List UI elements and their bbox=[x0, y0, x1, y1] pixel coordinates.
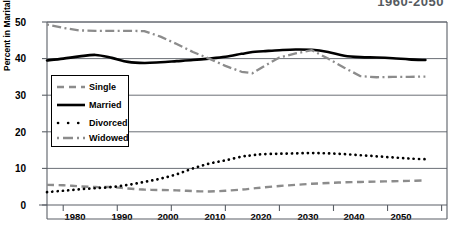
series-line-single bbox=[47, 180, 425, 191]
legend-label-widowed: Widowed bbox=[89, 133, 128, 143]
legend-label-single: Single bbox=[89, 82, 116, 92]
series-line-married bbox=[47, 49, 425, 63]
legend-swatch-single bbox=[56, 82, 86, 92]
series-line-divorced bbox=[47, 153, 425, 192]
legend-item-single: Single bbox=[52, 78, 128, 96]
chart-legend: Single Married Divorced Widowed bbox=[51, 75, 129, 147]
legend-item-widowed: Widowed bbox=[52, 129, 128, 147]
legend-swatch-divorced bbox=[56, 118, 86, 128]
legend-label-married: Married bbox=[89, 100, 122, 110]
legend-swatch-married bbox=[56, 100, 86, 110]
legend-item-married: Married bbox=[52, 96, 128, 114]
legend-swatch-widowed bbox=[56, 133, 86, 143]
legend-label-divorced: Divorced bbox=[89, 118, 128, 128]
series-line-widowed bbox=[47, 25, 425, 78]
chart-figure: 1960-2050 Percent in Marital Category 50… bbox=[0, 0, 458, 243]
